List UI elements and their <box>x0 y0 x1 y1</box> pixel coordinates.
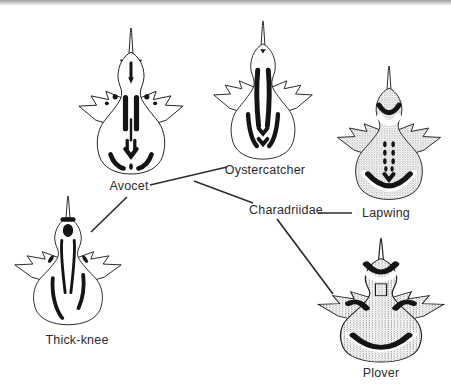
node-label-oystercatcher: Oystercatcher <box>225 163 305 177</box>
node-label-thick-knee: Thick-knee <box>45 333 108 347</box>
figure-page: Avocet Oystercatcher Charadriidae Lapwin… <box>0 0 451 391</box>
edge-line-oystercatcher-charadriidae <box>194 181 253 203</box>
lapwing-pterylosis-icon <box>337 66 440 199</box>
node-label-plover: Plover <box>363 366 400 380</box>
node-label-avocet: Avocet <box>109 179 148 193</box>
family-label-charadriidae: Charadriidae <box>249 203 323 217</box>
edge-line-avocet-oystercatcher <box>150 167 227 185</box>
edge-line-charadriidae-plover <box>277 219 333 294</box>
edge-line-thickknee-avocet <box>91 197 127 232</box>
thick-knee-pterylosis-icon <box>15 196 121 325</box>
avocet-pterylosis-icon <box>79 28 183 174</box>
oystercatcher-pterylosis-icon <box>214 21 313 159</box>
plover-pterylosis-icon <box>318 238 443 362</box>
node-label-lapwing: Lapwing <box>362 206 410 220</box>
